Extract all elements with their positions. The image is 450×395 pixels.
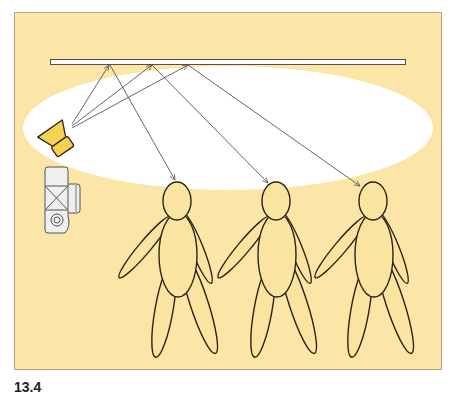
figure-caption: 13.4 [14,380,41,394]
torso [355,213,393,297]
light-spill [23,66,433,190]
head [163,182,191,220]
torso [258,213,296,297]
head [359,182,387,220]
torso [159,213,197,297]
ceiling [51,60,406,65]
camera-dial [51,214,63,226]
head [262,182,290,220]
